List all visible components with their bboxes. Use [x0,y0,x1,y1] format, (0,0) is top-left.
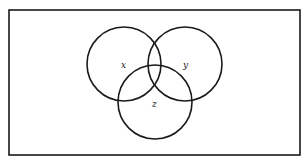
set-y-label: y [182,60,189,70]
set-z-label: z [151,99,157,109]
venn-diagram: x y z [0,0,307,160]
universe-rectangle [9,10,300,155]
set-x-label: x [121,60,126,70]
